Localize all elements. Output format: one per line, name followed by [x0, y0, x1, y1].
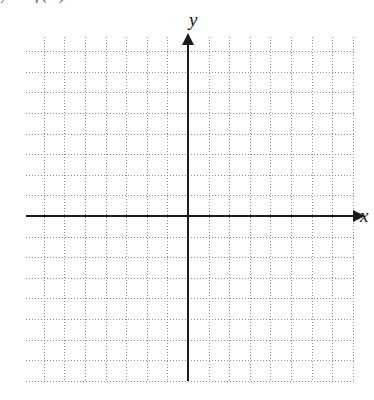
grid-line-horizontal: [26, 340, 356, 341]
grid-line-vertical: [44, 37, 45, 381]
grid-line-horizontal: [26, 175, 356, 176]
cropped-expression-text: y = f(x): [0, 0, 374, 3]
grid-line-horizontal: [26, 278, 356, 279]
grid-line-vertical: [167, 37, 168, 381]
figure-canvas: y = f(x) y x: [0, 0, 374, 400]
grid-line-horizontal: [26, 72, 356, 73]
grid-line-horizontal: [26, 257, 356, 258]
grid-line-vertical: [291, 37, 292, 381]
grid-line-vertical: [85, 37, 86, 381]
grid-line-horizontal: [26, 237, 356, 238]
grid-line-vertical: [312, 37, 313, 381]
grid-line-vertical: [209, 37, 210, 381]
grid-line-horizontal: [26, 298, 356, 299]
grid-line-vertical: [270, 37, 271, 381]
grid-line-vertical: [147, 37, 148, 381]
grid-line-horizontal: [26, 154, 356, 155]
grid-line-vertical: [106, 37, 107, 381]
y-axis-line: [187, 44, 189, 381]
grid-line-horizontal: [26, 360, 356, 361]
grid-line-horizontal: [26, 381, 356, 382]
grid-line-horizontal: [26, 51, 356, 52]
arrow-up-icon: [182, 33, 194, 45]
grid-line-horizontal: [26, 134, 356, 135]
grid-line-vertical: [64, 37, 65, 381]
y-axis-label: y: [189, 10, 197, 29]
grid-line-horizontal: [26, 92, 356, 93]
grid-line-horizontal: [26, 319, 356, 320]
grid-line-vertical: [250, 37, 251, 381]
grid-line-vertical: [229, 37, 230, 381]
grid-line-vertical: [332, 37, 333, 381]
x-axis-line: [26, 215, 356, 217]
grid-line-vertical: [353, 37, 354, 381]
grid-line-horizontal: [26, 113, 356, 114]
grid-line-horizontal: [26, 195, 356, 196]
coordinate-grid: [26, 37, 356, 381]
grid-line-vertical: [126, 37, 127, 381]
x-axis-label: x: [360, 206, 368, 225]
